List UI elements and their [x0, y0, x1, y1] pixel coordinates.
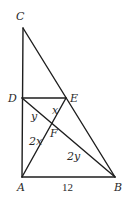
segment-CA — [22, 28, 23, 177]
segment-label-DF: y — [30, 110, 38, 123]
point-label-B: B — [113, 181, 122, 194]
point-label-F: F — [49, 127, 58, 140]
point-label-E: E — [69, 92, 78, 105]
segment-label-AB: 12 — [62, 181, 73, 193]
point-label-A: A — [16, 181, 25, 194]
point-label-C: C — [16, 10, 25, 23]
segment-label-BF: 2y — [66, 150, 81, 163]
segment-label-AF: 2x — [28, 135, 43, 148]
geometry-diagram: C D E A B F x y 2x 2y 12 — [0, 0, 133, 206]
segment-label-EF: x — [52, 104, 59, 117]
point-label-D: D — [7, 92, 17, 105]
